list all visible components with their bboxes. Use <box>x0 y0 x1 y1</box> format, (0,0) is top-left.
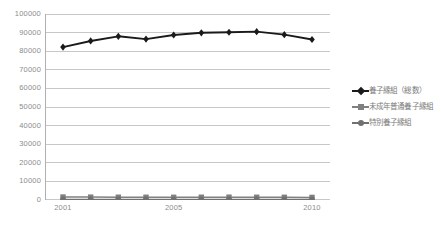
data-point <box>88 37 94 44</box>
y-axis-tick: 100000 <box>0 10 41 18</box>
legend-label: 養子縁組（総数） <box>369 86 426 96</box>
data-point <box>309 36 315 43</box>
legend-item-3[interactable]: 特別養子縁組 <box>352 115 441 131</box>
y-axis-tick: 0 <box>0 196 41 204</box>
x-axis-tick-labels: 200120052010 <box>45 203 330 217</box>
x-axis-tick: 2005 <box>165 203 183 212</box>
data-point <box>60 44 66 51</box>
legend-item-2[interactable]: 未成年普通養子縁組 <box>352 99 441 115</box>
legend-marker-diamond-icon <box>352 85 369 97</box>
legend-label: 特別養子縁組 <box>369 118 412 128</box>
data-point <box>171 31 177 38</box>
y-axis-tick-labels: 0100002000030000400005000060000700008000… <box>0 14 41 200</box>
y-axis-tick: 90000 <box>0 29 41 37</box>
data-point <box>254 28 260 35</box>
legend-key-marker <box>356 87 364 95</box>
y-axis-tick: 20000 <box>0 159 41 167</box>
data-series-1 <box>60 28 315 51</box>
chart-legend: 養子縁組（総数）未成年普通養子縁組特別養子縁組 <box>352 83 441 131</box>
x-axis-tick: 2010 <box>303 203 321 212</box>
legend-key-marker <box>358 104 364 110</box>
data-point <box>226 29 232 36</box>
y-axis-tick: 30000 <box>0 140 41 148</box>
plot-area <box>45 14 330 200</box>
y-axis-tick: 10000 <box>0 177 41 185</box>
data-point <box>143 36 149 43</box>
legend-item-1[interactable]: 養子縁組（総数） <box>352 83 441 99</box>
data-series-layer <box>45 14 330 200</box>
y-axis-tick: 50000 <box>0 103 41 111</box>
y-axis-tick: 40000 <box>0 122 41 130</box>
data-point <box>116 33 122 40</box>
x-axis-tick: 2001 <box>54 203 72 212</box>
series-line <box>63 32 312 47</box>
legend-marker-square-icon <box>352 101 369 113</box>
data-point <box>199 29 205 36</box>
line-chart: 0100002000030000400005000060000700008000… <box>0 0 441 226</box>
y-axis-tick: 70000 <box>0 66 41 74</box>
legend-key-marker <box>358 120 364 126</box>
y-axis-tick: 80000 <box>0 47 41 55</box>
legend-marker-circle-icon <box>352 117 369 129</box>
data-point <box>282 31 288 38</box>
y-axis-tick: 60000 <box>0 84 41 92</box>
legend-label: 未成年普通養子縁組 <box>369 102 433 112</box>
